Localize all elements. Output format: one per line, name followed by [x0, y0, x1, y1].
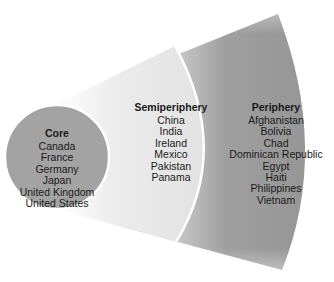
periphery-title: Periphery [218, 101, 334, 114]
periphery-country: Dominican Republic [218, 149, 334, 160]
periphery-country: Vietnam [218, 195, 334, 206]
semiperiphery-zone-label: Semiperiphery China India Ireland Mexico… [126, 101, 216, 183]
core-country: United States [7, 198, 107, 209]
periphery-zone-label: Periphery Afghanistan Bolivia Chad Domin… [218, 101, 334, 206]
semiperiphery-country: Panama [126, 172, 216, 183]
semiperiphery-title: Semiperiphery [126, 101, 216, 114]
core-title: Core [7, 127, 107, 140]
core-country: Japan [7, 175, 107, 186]
core-zone-label: Core Canada France Germany Japan United … [7, 127, 107, 209]
semiperiphery-country: Mexico [126, 149, 216, 160]
